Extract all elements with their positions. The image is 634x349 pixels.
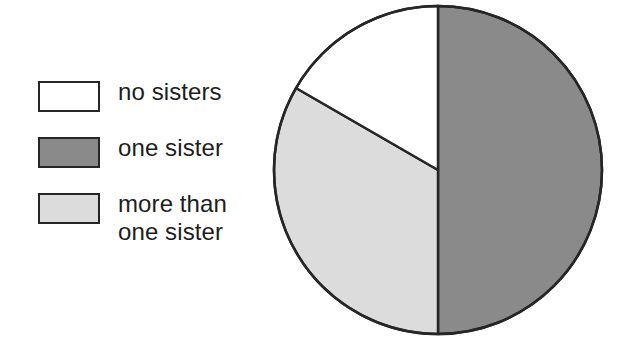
legend-label-one-sister: one sister bbox=[118, 134, 223, 162]
legend-swatch-more-than-one-sister bbox=[38, 193, 100, 224]
pie-svg bbox=[272, 0, 606, 340]
legend-item-one-sister: one sister bbox=[38, 134, 268, 168]
legend-swatch-no-sisters bbox=[38, 81, 100, 112]
legend-item-no-sisters: no sisters bbox=[38, 78, 268, 112]
legend-label-no-sisters: no sisters bbox=[118, 78, 222, 106]
pie-chart-figure: no sisters one sister more than one sist… bbox=[0, 0, 634, 349]
legend-item-more-than-one-sister: more than one sister bbox=[38, 190, 268, 246]
legend-swatch-one-sister bbox=[38, 137, 100, 168]
chart-legend: no sisters one sister more than one sist… bbox=[38, 78, 268, 246]
pie-slices bbox=[274, 6, 602, 334]
legend-label-more-than-one-sister: more than one sister bbox=[118, 190, 227, 246]
pie-slice-one-sister bbox=[438, 6, 602, 334]
pie-chart-graphic bbox=[272, 0, 606, 340]
